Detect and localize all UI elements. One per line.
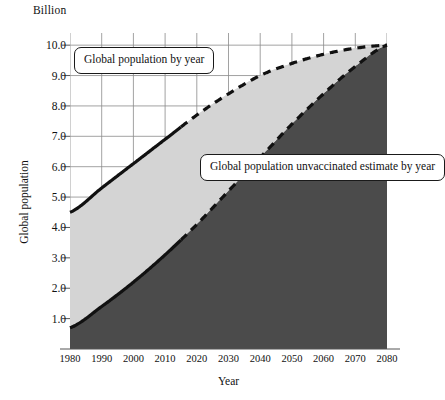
y-tick-label: 6.0 xyxy=(22,161,66,173)
y-tick-label: 10.0 xyxy=(22,39,66,51)
x-tick-label: 2080 xyxy=(377,353,398,364)
x-axis-title: Year xyxy=(70,375,387,387)
y-tick-label: 5.0 xyxy=(22,191,66,203)
callout-global-population: Global population by year xyxy=(74,47,214,74)
y-tick-label: 2.0 xyxy=(22,282,66,294)
x-tick-label: 2000 xyxy=(123,353,144,364)
x-tick-label: 1990 xyxy=(91,353,112,364)
y-tick-label: 1.0 xyxy=(22,313,66,325)
x-tick-label: 2040 xyxy=(250,353,271,364)
x-tick-label: 2050 xyxy=(281,353,302,364)
callout-unvaccinated-estimate: Global population unvaccinated estimate … xyxy=(200,154,445,181)
y-tick-label: 3.0 xyxy=(22,252,66,264)
x-tick-label: 2030 xyxy=(218,353,239,364)
y-tick-label: 4.0 xyxy=(22,221,66,233)
y-tick-label: 9.0 xyxy=(22,70,66,82)
x-tick-label: 2020 xyxy=(186,353,207,364)
y-axis-tick-labels: 1.02.03.04.05.06.07.08.09.010.0 xyxy=(18,0,66,400)
y-tick-label: 7.0 xyxy=(22,130,66,142)
x-tick-label: 1980 xyxy=(60,353,81,364)
x-tick-label: 2060 xyxy=(313,353,334,364)
x-tick-label: 2010 xyxy=(155,353,176,364)
y-tick-label: 8.0 xyxy=(22,100,66,112)
x-tick-label: 2070 xyxy=(345,353,366,364)
